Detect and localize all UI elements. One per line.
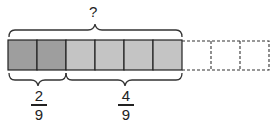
numerator: 4 bbox=[122, 87, 130, 104]
cell-dark-2 bbox=[37, 40, 66, 70]
numerator: 2 bbox=[35, 87, 43, 104]
fraction-two-ninths: 2 9 bbox=[29, 88, 49, 122]
top-brace bbox=[9, 24, 182, 37]
dashed-cells bbox=[182, 41, 269, 70]
bottom-brace-right bbox=[66, 73, 182, 86]
bottom-brace-left bbox=[9, 73, 66, 86]
cell-light-3 bbox=[124, 40, 153, 70]
cell-light-4 bbox=[153, 40, 182, 70]
cell-light-2 bbox=[95, 40, 124, 70]
fraction-four-ninths: 4 9 bbox=[116, 88, 136, 122]
total-unknown-label: ? bbox=[89, 3, 97, 20]
cell-light-1 bbox=[66, 40, 95, 70]
cell-dark-1 bbox=[8, 40, 37, 70]
denominator: 9 bbox=[122, 106, 130, 123]
denominator: 9 bbox=[35, 106, 43, 123]
